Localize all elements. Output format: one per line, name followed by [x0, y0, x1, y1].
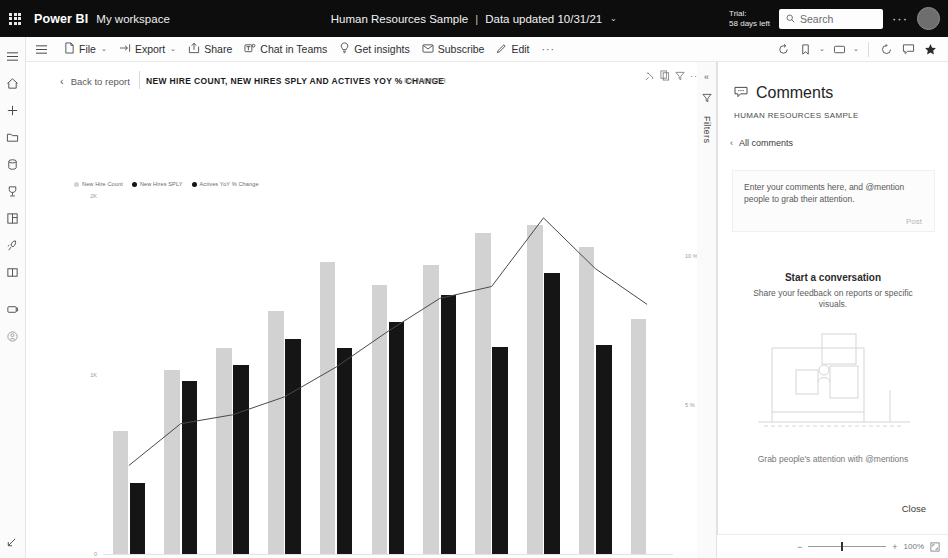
- chevron-down-icon: ⌄: [170, 45, 176, 53]
- get-insights-label: Get insights: [354, 43, 409, 55]
- personalize-visual-icon[interactable]: [645, 71, 655, 81]
- toolbar-divider: [868, 42, 869, 57]
- brand-bar-right-group: Trial: 58 days left Search ···: [729, 7, 940, 30]
- legend-swatch-icon: [132, 182, 137, 187]
- file-menu-button[interactable]: File ⌄: [58, 37, 113, 62]
- expand-corner-icon[interactable]: [6, 534, 17, 552]
- empty-state-title: Start a conversation: [718, 272, 948, 283]
- search-placeholder: Search: [800, 13, 833, 25]
- legend-label: New Hires SPLY: [140, 181, 183, 187]
- zoom-in-button[interactable]: +: [892, 542, 897, 552]
- combo-chart[interactable]: 01K2K 5 %10 % JanFebMarAprMayJunJulAugSe…: [81, 197, 701, 558]
- reset-icon[interactable]: [773, 37, 793, 62]
- deployment-pipelines-icon[interactable]: [0, 232, 26, 259]
- comments-icon[interactable]: [898, 37, 918, 62]
- all-comments-label: All comments: [739, 138, 793, 148]
- line-actives-yoy-change[interactable]: [129, 218, 647, 466]
- hamburger-menu-icon[interactable]: [33, 37, 58, 62]
- legend-label: Actives YoY % Change: [200, 181, 259, 187]
- chat-in-teams-button[interactable]: Chat in Teams: [238, 37, 333, 62]
- brand-overflow-icon[interactable]: ···: [892, 11, 908, 26]
- favorite-star-icon[interactable]: [920, 37, 940, 62]
- search-input[interactable]: Search: [779, 9, 883, 29]
- subscribe-button[interactable]: Subscribe: [416, 37, 491, 62]
- trial-line-2: 58 days left: [729, 19, 770, 29]
- export-menu-button[interactable]: Export ⌄: [113, 37, 182, 62]
- export-menu-label: Export: [135, 43, 165, 55]
- copy-visual-icon[interactable]: [660, 70, 670, 81]
- datahub-icon[interactable]: [0, 151, 26, 178]
- browse-folder-icon[interactable]: [0, 124, 26, 151]
- filter-visual-icon[interactable]: [675, 71, 685, 81]
- comment-input-box[interactable]: Enter your comments here, and @mention p…: [732, 170, 935, 232]
- chevron-down-icon[interactable]: ⌄: [851, 37, 861, 62]
- command-bar-right-icons: ⌄ ⌄: [773, 37, 948, 62]
- close-button[interactable]: Close: [902, 503, 926, 514]
- bookmarks-icon[interactable]: [795, 37, 815, 62]
- get-insights-button[interactable]: Get insights: [333, 37, 415, 62]
- comment-input-placeholder: Enter your comments here, and @mention p…: [744, 181, 924, 205]
- chevron-down-icon: ⌄: [101, 45, 107, 53]
- post-comment-button[interactable]: Post: [906, 217, 922, 226]
- back-to-report-label: Back to report: [71, 76, 130, 87]
- legend-swatch-icon: [192, 182, 197, 187]
- filters-pane-collapsed[interactable]: « Filters: [697, 62, 717, 558]
- legend-swatch-icon: [74, 182, 79, 187]
- visual-subtitle: BY MONTH: [404, 76, 446, 85]
- app-launcher-icon[interactable]: [0, 13, 30, 25]
- y-axis-left-tick: 0: [94, 551, 97, 557]
- view-icon[interactable]: [829, 37, 849, 62]
- chevron-down-icon[interactable]: ⌄: [817, 37, 827, 62]
- nav-toggle-icon[interactable]: [0, 43, 26, 70]
- lightbulb-icon: [339, 42, 350, 56]
- file-icon: [64, 42, 75, 56]
- y-axis-right-tick: 10 %: [685, 253, 698, 259]
- chevron-down-icon[interactable]: ⌄: [610, 14, 617, 23]
- fit-to-page-icon[interactable]: [930, 542, 940, 552]
- legend-item-new-hire-count[interactable]: New Hire Count: [74, 181, 123, 187]
- my-workspace-icon[interactable]: [0, 323, 26, 350]
- workspace-name[interactable]: My workspace: [96, 13, 170, 25]
- zoom-slider-thumb[interactable]: [841, 542, 843, 551]
- data-updated-label[interactable]: Data updated 10/31/21: [485, 13, 602, 25]
- visual-action-icons: ···: [645, 70, 702, 81]
- y-axis-left-tick: 1K: [90, 372, 97, 378]
- header-divider: [139, 71, 140, 89]
- legend-item-actives-yoy[interactable]: Actives YoY % Change: [192, 181, 259, 187]
- metrics-goals-icon[interactable]: [0, 178, 26, 205]
- y-axis-right-tick: 5 %: [685, 402, 695, 408]
- refresh-icon[interactable]: [876, 37, 896, 62]
- comment-bubble-icon: [734, 84, 748, 102]
- illustration-caption: Grab people's attention with @mentions: [718, 454, 948, 464]
- share-button[interactable]: Share: [182, 37, 238, 62]
- share-label: Share: [204, 43, 232, 55]
- edit-button[interactable]: Edit: [490, 37, 535, 62]
- zoom-out-button[interactable]: −: [797, 542, 802, 552]
- chevron-left-icon: ‹: [730, 138, 733, 148]
- legend-item-new-hires-sply[interactable]: New Hires SPLY: [132, 181, 183, 187]
- x-axis-baseline: [103, 554, 673, 555]
- product-name[interactable]: Power BI: [34, 12, 88, 26]
- avatar[interactable]: [917, 7, 940, 30]
- report-command-bar: File ⌄ Export ⌄ Share Chat in Teams: [26, 37, 948, 62]
- workspaces-icon[interactable]: [0, 296, 26, 323]
- chart-legend: New Hire Count New Hires SPLY Actives Yo…: [74, 181, 259, 187]
- zoom-slider[interactable]: [808, 546, 886, 547]
- chevron-left-icon: ‹: [60, 75, 64, 87]
- share-icon: [188, 42, 200, 56]
- comments-empty-state: Start a conversation Share your feedback…: [718, 272, 948, 310]
- apps-grid-icon[interactable]: [0, 205, 26, 232]
- all-comments-link[interactable]: ‹ All comments: [730, 138, 793, 148]
- report-canvas: ‹ Back to report NEW HIRE COUNT, NEW HIR…: [26, 62, 716, 558]
- expand-filters-icon[interactable]: «: [704, 72, 709, 82]
- mail-icon: [422, 43, 434, 56]
- subscribe-label: Subscribe: [438, 43, 485, 55]
- create-plus-icon[interactable]: [0, 97, 26, 124]
- comments-title: Comments: [756, 84, 833, 102]
- command-overflow-button[interactable]: ···: [536, 37, 562, 62]
- y-axis-left-tick: 2K: [90, 193, 97, 199]
- back-to-report-button[interactable]: ‹ Back to report: [60, 75, 130, 87]
- home-icon[interactable]: [0, 70, 26, 97]
- visual-title: NEW HIRE COUNT, NEW HIRES SPLY AND ACTIV…: [146, 76, 444, 86]
- learn-book-icon[interactable]: [0, 259, 26, 286]
